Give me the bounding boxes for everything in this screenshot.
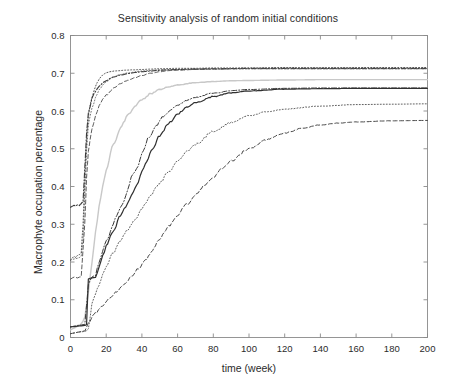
svg-text:0.2: 0.2 xyxy=(51,257,64,268)
x-axis-ticks: 020406080100120140160180200 xyxy=(68,36,436,354)
series-line-run-8 xyxy=(71,120,428,333)
svg-text:100: 100 xyxy=(241,343,257,354)
svg-text:80: 80 xyxy=(208,343,219,354)
y-axis-label: Macrophyte occupation percentage xyxy=(32,62,44,322)
series-line-run-7 xyxy=(71,104,428,334)
svg-text:0: 0 xyxy=(68,343,73,354)
svg-text:40: 40 xyxy=(137,343,148,354)
y-axis-ticks: 00.10.20.30.40.50.60.70.8 xyxy=(51,30,427,343)
svg-text:0.6: 0.6 xyxy=(51,106,64,117)
series-line-run-4 xyxy=(71,80,428,330)
svg-text:0.7: 0.7 xyxy=(51,68,64,79)
svg-text:160: 160 xyxy=(348,343,364,354)
svg-text:140: 140 xyxy=(312,343,328,354)
svg-text:0.1: 0.1 xyxy=(51,294,64,305)
svg-text:0.3: 0.3 xyxy=(51,219,64,230)
svg-text:20: 20 xyxy=(101,343,112,354)
figure-container: Sensitivity analysis of random initial c… xyxy=(0,0,456,385)
svg-text:0.8: 0.8 xyxy=(51,30,64,41)
svg-text:0.5: 0.5 xyxy=(51,143,64,154)
series-line-run-9 xyxy=(71,69,428,261)
series-line-run-3 xyxy=(71,69,428,279)
svg-text:180: 180 xyxy=(384,343,400,354)
data-series-group xyxy=(71,68,428,334)
svg-text:60: 60 xyxy=(172,343,183,354)
svg-text:0.4: 0.4 xyxy=(51,181,64,192)
svg-text:0: 0 xyxy=(59,332,64,343)
svg-text:200: 200 xyxy=(420,343,436,354)
plot-area: 020406080100120140160180200 00.10.20.30.… xyxy=(0,0,456,385)
svg-text:120: 120 xyxy=(277,343,293,354)
series-line-run-1 xyxy=(71,68,428,261)
series-line-run-5 xyxy=(71,88,428,327)
series-line-run-6 xyxy=(71,88,428,327)
x-axis-label: time (week) xyxy=(70,362,428,374)
